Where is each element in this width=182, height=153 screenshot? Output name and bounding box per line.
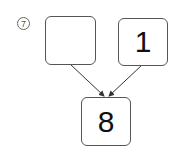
box-top-left[interactable] — [45, 16, 96, 65]
box-top-right: 1 — [118, 18, 168, 66]
box-bottom: 8 — [81, 97, 131, 146]
problem-number: 7 — [17, 17, 30, 30]
arrow-left — [70, 64, 104, 96]
arrow-right — [109, 65, 142, 96]
